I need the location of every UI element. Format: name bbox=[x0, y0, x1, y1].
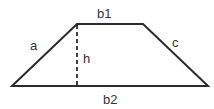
label-c: c bbox=[172, 35, 179, 50]
label-a: a bbox=[30, 38, 38, 53]
label-b1: b1 bbox=[97, 6, 111, 21]
label-b2: b2 bbox=[103, 92, 117, 107]
label-h: h bbox=[83, 51, 90, 66]
trapezoid-diagram: b1 a h c b2 bbox=[0, 0, 214, 109]
trapezoid-shape bbox=[12, 24, 208, 86]
